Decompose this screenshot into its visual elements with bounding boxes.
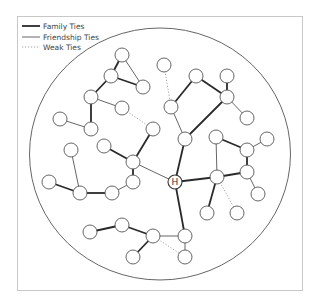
- person-node: [97, 139, 111, 153]
- person-node: [64, 143, 78, 157]
- node-circle: [220, 69, 234, 83]
- person-node: [251, 187, 265, 201]
- node-circle: [115, 48, 129, 62]
- node-circle: [105, 186, 119, 200]
- node-circle: [251, 187, 265, 201]
- node-circle: [104, 69, 118, 83]
- node-circle: [64, 143, 78, 157]
- person-node: [115, 218, 129, 232]
- person-node: [105, 186, 119, 200]
- center-node-label: H: [172, 177, 179, 187]
- node-circle: [53, 112, 67, 126]
- person-node: [115, 48, 129, 62]
- person-node: [178, 132, 192, 146]
- node-circle: [209, 130, 223, 144]
- node-circle: [230, 206, 244, 220]
- node-circle: [157, 58, 171, 72]
- person-node: [178, 229, 192, 243]
- person-node: [136, 80, 150, 94]
- node-circle: [240, 111, 254, 125]
- node-circle: [146, 229, 160, 243]
- person-node: [146, 229, 160, 243]
- person-node: [260, 132, 274, 146]
- person-node: [84, 90, 98, 104]
- node-circle: [126, 175, 140, 189]
- node-circle: [164, 100, 178, 114]
- node-circle: [126, 250, 140, 264]
- person-node: [83, 225, 97, 239]
- person-node: [146, 122, 160, 136]
- person-node: [240, 143, 254, 157]
- node-circle: [220, 90, 234, 104]
- person-node: [178, 250, 192, 264]
- node-circle: [115, 218, 129, 232]
- person-node: [164, 100, 178, 114]
- person-node: [73, 186, 87, 200]
- node-circle: [84, 122, 98, 136]
- node-circle: [210, 170, 224, 184]
- person-node: [126, 175, 140, 189]
- legend-label-family: Family Ties: [43, 22, 85, 31]
- node-circle: [136, 80, 150, 94]
- legend-label-weak: Weak Ties: [43, 43, 81, 52]
- person-node: [53, 112, 67, 126]
- social-network-diagram: Family Ties Friendship Ties Weak Ties H: [0, 0, 318, 306]
- person-node: [84, 122, 98, 136]
- person-node: [42, 175, 56, 189]
- person-node: [230, 206, 244, 220]
- node-circle: [260, 132, 274, 146]
- node-circle: [115, 101, 129, 115]
- center-node: H: [168, 175, 182, 189]
- person-node: [240, 111, 254, 125]
- person-node: [210, 170, 224, 184]
- node-circle: [73, 186, 87, 200]
- person-node: [209, 130, 223, 144]
- node-circle: [178, 250, 192, 264]
- node-circle: [84, 90, 98, 104]
- node-circle: [240, 165, 254, 179]
- person-node: [157, 58, 171, 72]
- person-node: [220, 69, 234, 83]
- diagram-frame: [18, 17, 303, 291]
- person-node: [126, 155, 140, 169]
- node-circle: [97, 139, 111, 153]
- node-circle: [240, 143, 254, 157]
- person-node: [220, 90, 234, 104]
- node-circle: [126, 155, 140, 169]
- node-circle: [42, 175, 56, 189]
- person-node: [240, 165, 254, 179]
- person-node: [189, 69, 203, 83]
- node-circle: [200, 206, 214, 220]
- node-circle: [189, 69, 203, 83]
- node-circle: [146, 122, 160, 136]
- node-circle: [83, 225, 97, 239]
- node-circle: [178, 132, 192, 146]
- person-node: [104, 69, 118, 83]
- person-node: [200, 206, 214, 220]
- person-node: [115, 101, 129, 115]
- person-node: [126, 250, 140, 264]
- legend-label-friendship: Friendship Ties: [43, 33, 99, 42]
- node-circle: [178, 229, 192, 243]
